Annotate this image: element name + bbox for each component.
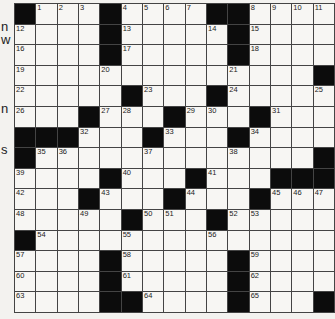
grid-cell[interactable] [58, 86, 79, 107]
grid-cell[interactable] [122, 66, 143, 87]
grid-cell[interactable] [36, 292, 57, 313]
grid-cell[interactable] [292, 66, 313, 87]
grid-cell[interactable] [250, 231, 271, 252]
grid-cell[interactable] [186, 292, 207, 313]
grid-cell[interactable]: 4 [122, 4, 143, 25]
grid-cell[interactable]: 16 [15, 45, 36, 66]
grid-cell[interactable]: 14 [207, 25, 228, 46]
grid-cell[interactable] [250, 169, 271, 190]
grid-cell[interactable] [36, 189, 57, 210]
grid-cell[interactable]: 5 [143, 4, 164, 25]
grid-cell[interactable] [228, 169, 249, 190]
grid-cell[interactable] [58, 292, 79, 313]
grid-cell[interactable]: 21 [228, 66, 249, 87]
grid-cell[interactable]: 1 [36, 4, 57, 25]
grid-cell[interactable]: 22 [15, 86, 36, 107]
grid-cell[interactable] [271, 45, 292, 66]
grid-cell[interactable] [36, 107, 57, 128]
grid-cell[interactable]: 52 [228, 210, 249, 231]
grid-cell[interactable] [228, 107, 249, 128]
grid-cell[interactable] [36, 210, 57, 231]
grid-cell[interactable] [79, 45, 100, 66]
grid-cell[interactable]: 65 [250, 292, 271, 313]
grid-cell[interactable] [164, 169, 185, 190]
grid-cell[interactable] [314, 251, 335, 272]
grid-cell[interactable] [79, 86, 100, 107]
grid-cell[interactable]: 3 [79, 4, 100, 25]
grid-cell[interactable]: 44 [186, 189, 207, 210]
grid-cell[interactable] [143, 231, 164, 252]
grid-cell[interactable]: 54 [36, 231, 57, 252]
grid-cell[interactable]: 11 [314, 4, 335, 25]
grid-cell[interactable] [79, 148, 100, 169]
grid-cell[interactable] [207, 128, 228, 149]
grid-cell[interactable]: 40 [122, 169, 143, 190]
grid-cell[interactable] [186, 86, 207, 107]
grid-cell[interactable] [36, 251, 57, 272]
grid-cell[interactable] [79, 25, 100, 46]
grid-cell[interactable] [314, 25, 335, 46]
grid-cell[interactable] [143, 66, 164, 87]
grid-cell[interactable]: 24 [228, 86, 249, 107]
grid-cell[interactable] [292, 107, 313, 128]
grid-cell[interactable]: 56 [207, 231, 228, 252]
grid-cell[interactable] [164, 86, 185, 107]
grid-cell[interactable] [207, 272, 228, 293]
grid-cell[interactable]: 63 [15, 292, 36, 313]
grid-cell[interactable] [292, 231, 313, 252]
grid-cell[interactable] [186, 231, 207, 252]
grid-cell[interactable] [164, 272, 185, 293]
grid-cell[interactable] [207, 66, 228, 87]
grid-cell[interactable]: 60 [15, 272, 36, 293]
grid-cell[interactable]: 35 [36, 148, 57, 169]
grid-cell[interactable]: 41 [207, 169, 228, 190]
grid-cell[interactable] [250, 66, 271, 87]
grid-cell[interactable] [79, 251, 100, 272]
grid-cell[interactable] [164, 148, 185, 169]
grid-cell[interactable] [292, 45, 313, 66]
grid-cell[interactable] [79, 231, 100, 252]
grid-cell[interactable]: 20 [100, 66, 121, 87]
grid-cell[interactable] [143, 189, 164, 210]
grid-cell[interactable] [58, 189, 79, 210]
grid-cell[interactable] [186, 45, 207, 66]
grid-cell[interactable] [271, 66, 292, 87]
grid-cell[interactable] [143, 45, 164, 66]
grid-cell[interactable] [271, 272, 292, 293]
grid-cell[interactable] [207, 148, 228, 169]
grid-cell[interactable] [164, 45, 185, 66]
grid-cell[interactable] [58, 66, 79, 87]
grid-cell[interactable]: 9 [271, 4, 292, 25]
grid-cell[interactable] [36, 66, 57, 87]
grid-cell[interactable]: 6 [164, 4, 185, 25]
grid-cell[interactable] [271, 86, 292, 107]
grid-cell[interactable] [164, 231, 185, 252]
grid-cell[interactable]: 61 [122, 272, 143, 293]
grid-cell[interactable] [36, 25, 57, 46]
grid-cell[interactable]: 32 [79, 128, 100, 149]
grid-cell[interactable]: 64 [143, 292, 164, 313]
grid-cell[interactable] [186, 66, 207, 87]
grid-cell[interactable] [36, 86, 57, 107]
grid-cell[interactable] [58, 272, 79, 293]
grid-cell[interactable] [36, 45, 57, 66]
grid-cell[interactable]: 37 [143, 148, 164, 169]
grid-cell[interactable]: 18 [250, 45, 271, 66]
grid-cell[interactable] [100, 231, 121, 252]
grid-cell[interactable]: 2 [58, 4, 79, 25]
grid-cell[interactable] [58, 210, 79, 231]
grid-cell[interactable] [314, 231, 335, 252]
grid-cell[interactable] [292, 25, 313, 46]
grid-cell[interactable] [250, 148, 271, 169]
grid-cell[interactable]: 47 [314, 189, 335, 210]
grid-cell[interactable]: 58 [122, 251, 143, 272]
grid-cell[interactable]: 43 [100, 189, 121, 210]
grid-cell[interactable] [271, 25, 292, 46]
grid-cell[interactable]: 53 [250, 210, 271, 231]
grid-cell[interactable] [271, 210, 292, 231]
grid-cell[interactable]: 42 [15, 189, 36, 210]
grid-cell[interactable]: 50 [143, 210, 164, 231]
grid-cell[interactable] [271, 148, 292, 169]
grid-cell[interactable]: 51 [164, 210, 185, 231]
grid-cell[interactable]: 10 [292, 4, 313, 25]
